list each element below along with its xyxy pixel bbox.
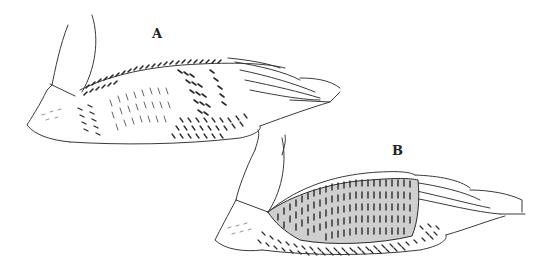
bird-a-drawing bbox=[27, 15, 340, 155]
bird-drawings bbox=[0, 0, 535, 277]
panel-label-b: B bbox=[392, 143, 403, 158]
bird-illustration-figure: A B bbox=[0, 0, 535, 277]
panel-label-a: A bbox=[152, 26, 162, 41]
bird-b-drawing bbox=[215, 138, 525, 255]
